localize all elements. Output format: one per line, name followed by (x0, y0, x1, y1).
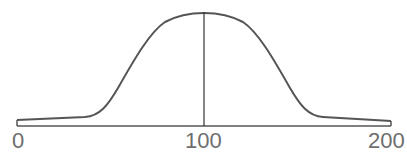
tick-label-200: 200 (368, 130, 405, 152)
tick-label-0: 0 (12, 130, 24, 152)
tick-label-100: 100 (185, 130, 222, 152)
